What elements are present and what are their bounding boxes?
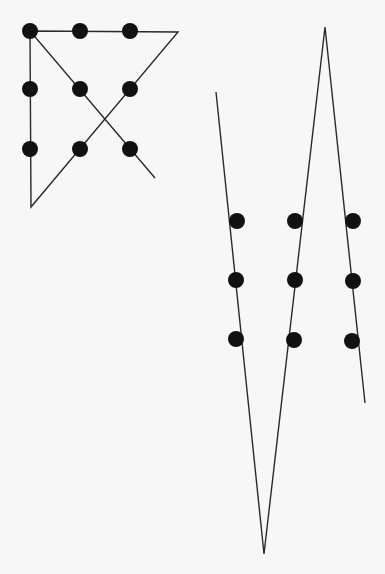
dot xyxy=(72,141,88,157)
dot xyxy=(122,23,138,39)
solution-path xyxy=(216,27,365,554)
puzzle-four-line-solution xyxy=(22,23,178,207)
dot xyxy=(22,81,38,97)
dot xyxy=(72,23,88,39)
dot xyxy=(286,332,302,348)
dot xyxy=(229,213,245,229)
dot xyxy=(228,331,244,347)
dot xyxy=(122,141,138,157)
nine-dot-diagram xyxy=(0,0,385,574)
dot xyxy=(287,213,303,229)
puzzle-three-line-solution xyxy=(216,27,365,554)
dot xyxy=(122,81,138,97)
dot xyxy=(345,213,361,229)
dot xyxy=(287,272,303,288)
dot xyxy=(345,273,361,289)
dot xyxy=(344,333,360,349)
dot xyxy=(22,141,38,157)
dot xyxy=(22,23,38,39)
dot xyxy=(72,81,88,97)
solution-path xyxy=(30,31,178,207)
dot xyxy=(228,272,244,288)
